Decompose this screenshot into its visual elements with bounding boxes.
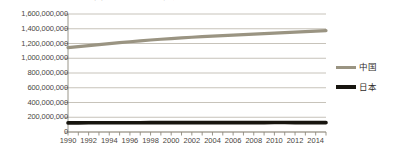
line-chart: 中国と日本の人口推移（1990-2015） 1,600,000,0001,400… bbox=[0, 0, 393, 158]
y-axis-tick-label: 800,000,000 bbox=[0, 69, 68, 77]
legend-swatch-japan bbox=[336, 85, 356, 89]
y-axis-tick-label: 600,000,000 bbox=[0, 84, 68, 92]
y-axis-tick-label: 0 bbox=[0, 128, 68, 136]
series-line-china bbox=[68, 31, 326, 48]
legend-item-china[interactable]: 中国 bbox=[336, 60, 393, 74]
y-axis-tick-label: 1,400,000,000 bbox=[0, 25, 68, 33]
legend-swatch-china bbox=[336, 66, 356, 69]
chart-legend: 中国日本 bbox=[336, 60, 393, 100]
y-axis-tick-label: 200,000,000 bbox=[0, 113, 68, 121]
y-axis-tick-label: 1,600,000,000 bbox=[0, 10, 68, 18]
y-axis-tick-label: 1,000,000,000 bbox=[0, 54, 68, 62]
legend-label-japan: 日本 bbox=[359, 82, 377, 92]
y-axis-tick-label: 400,000,000 bbox=[0, 99, 68, 107]
legend-label-china: 中国 bbox=[359, 62, 377, 72]
legend-item-japan[interactable]: 日本 bbox=[336, 80, 393, 94]
chart-title: 中国と日本の人口推移（1990-2015） bbox=[0, 0, 330, 1]
y-axis-tick-label: 1,200,000,000 bbox=[0, 40, 68, 48]
x-axis-tick-label: 2014 bbox=[303, 136, 329, 145]
